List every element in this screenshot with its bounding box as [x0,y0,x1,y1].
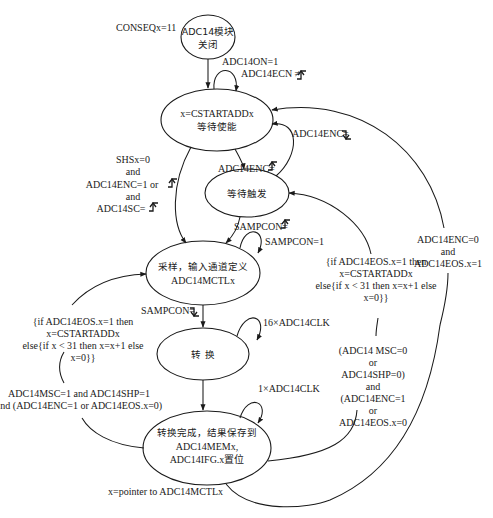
edge-wait-enable-to-sample [175,147,191,243]
edge-done-to-wait-enable-mid [440,273,448,325]
svg-text:and: and [126,166,140,177]
svg-text:SHSx=0: SHSx=0 [116,154,150,165]
label-sampcon-rise: SAMPCON= [234,221,288,232]
edge-done-to-sample-upper [72,274,146,305]
state-done-line3: ADC14IFG.x置位 [170,453,245,465]
svg-text:ADC14EOS.x=1: ADC14EOS.x=1 [414,258,482,269]
state-convert-line1: 转 换 [191,349,214,360]
edge-wait-trigger-to-wait-enable [272,124,294,176]
svg-text:x=CSTARTADDx: x=CSTARTADDx [46,328,119,339]
svg-text:ADC14SC=: ADC14SC= [97,203,146,214]
state-convert: 转 换 [157,328,249,380]
edge-done-to-sample-mid [60,352,65,383]
label-sampcon-fall: SAMPCON= [141,305,195,316]
state-wait-enable-line2: 等待使能 [197,121,237,132]
state-done: 转换完成，结果保存到 ADC14MEMx, ADC14IFG.x置位 [143,411,271,485]
svg-text:and (ADC14ENC=1 or ADC14EOS.x=: and (ADC14ENC=1 or ADC14EOS.x=0) [0,400,162,412]
edge-convert-self [237,318,261,340]
svg-text:(ADC14ENC=1: (ADC14ENC=1 [340,393,405,405]
label-enc-rise: ADC14ENC= [218,163,275,174]
label-enc0-eos1: ADC14ENC=0 and ADC14EOS.x=1 [414,234,482,269]
svg-text:and: and [126,191,140,202]
state-off-line2: 关闭 [198,39,218,50]
svg-text:(ADC14 MSC=0: (ADC14 MSC=0 [339,345,408,357]
label-1-clk: 1×ADC14CLK [258,383,321,394]
state-off-line1: ADC14模块 [182,26,235,37]
state-done-line1: 转换完成，结果保存到 [157,427,257,438]
state-adc-off: ADC14模块 关闭 [181,15,235,59]
state-wait-trigger-line1: 等待触发 [227,188,267,199]
svg-text:ADC14MSC=1 and ADC14SHP=1: ADC14MSC=1 and ADC14SHP=1 [8,388,150,399]
edge-wait-enable-self [214,70,236,91]
svg-text:{if ADC14EOS.x=1 then: {if ADC14EOS.x=1 then [33,316,134,327]
state-wait-enable: x=CSTARTADDx 等待使能 [161,89,273,151]
label-shs-condition: SHSx=0 and ADC14ENC=1 or and ADC14SC= [86,154,159,214]
label-sampcon-1: SAMPCON=1 [265,236,324,247]
label-adc14ecn: ADC14ECN ≠ [241,68,301,79]
label-pointer: x=pointer to ADC14MCTLx [108,486,223,497]
svg-text:x=CSTARTADDx: x=CSTARTADDx [339,268,412,279]
svg-text:or: or [369,405,378,416]
svg-text:and: and [366,381,380,392]
state-wait-enable-line1: x=CSTARTADDx [180,108,253,119]
edge-done-to-sample-lower [82,418,144,448]
label-msc-condition-right: (ADC14 MSC=0 or ADC14SHP=0) and (ADC14EN… [339,345,408,428]
mode-label: CONSEQx=11 [116,22,176,33]
svg-text:ADC14SHP=0): ADC14SHP=0) [341,369,404,381]
label-enc-fall: ADC14ENC= [292,128,349,139]
svg-text:or: or [369,357,378,368]
label-eos-update-left: {if ADC14EOS.x=1 then x=CSTARTADDx else{… [22,316,144,363]
svg-text:ADC14EOS.x=0: ADC14EOS.x=0 [339,417,407,428]
svg-text:x=0}}: x=0}} [363,292,388,303]
adc14-state-diagram: CONSEQx=11 ADC14模块 关闭 x=CSTARTADDx 等待使能 … [0,0,493,518]
svg-text:x=0}}: x=0}} [70,352,95,363]
label-16-clk: 16×ADC14CLK [263,317,331,328]
svg-text:else{if x < 31 then x=x+1 else: else{if x < 31 then x=x+1 else [315,280,437,291]
svg-text:and: and [441,246,455,257]
svg-text:ADC14ENC=1 or: ADC14ENC=1 or [86,179,159,190]
edge-done-to-wait-trigger-mid [376,318,378,336]
state-sample: 采样，输入通道定义 ADC14MCTLx [146,241,260,305]
label-adc14on: ADC14ON=1 [222,56,278,67]
state-sample-line2: ADC14MCTLx [171,275,235,286]
svg-text:ADC14ENC=0: ADC14ENC=0 [417,234,479,245]
label-msc-condition-left: ADC14MSC=1 and ADC14SHP=1 and (ADC14ENC=… [0,388,162,412]
state-done-line2: ADC14MEMx, [176,441,239,452]
edge-done-to-wait-enable-upper [272,108,444,228]
edge-done-to-wait-enable-lower [226,325,440,507]
svg-text:{if ADC14EOS.x=1 then: {if ADC14EOS.x=1 then [326,256,427,267]
svg-text:else{if x < 31 then x=x+1 else: else{if x < 31 then x=x+1 else [22,340,144,351]
state-sample-line1: 采样，输入通道定义 [158,261,248,272]
